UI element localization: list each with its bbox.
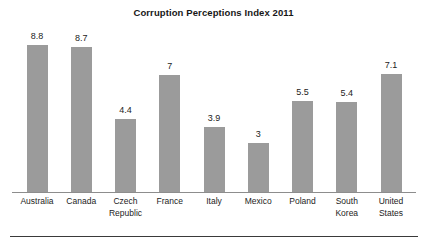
x-axis-tick-label-line: Australia <box>18 196 56 208</box>
bar <box>27 45 48 193</box>
x-axis-tick-label: Australia <box>18 196 56 219</box>
plot-area: 8.88.74.473.935.55.47.1 <box>12 30 416 193</box>
x-axis-category-labels: AustraliaCanadaCzechRepublicFranceItalyM… <box>12 196 416 219</box>
bar <box>336 102 357 193</box>
chart-page: Corruption Perceptions Index 2011 8.88.7… <box>0 0 427 245</box>
x-axis-line <box>12 192 416 193</box>
bar-value-label: 8.7 <box>75 33 88 44</box>
bar <box>248 143 269 193</box>
x-axis-tick-label: Canada <box>62 196 100 219</box>
bar-value-label: 4.4 <box>119 105 132 116</box>
x-axis-tick-label-line: Poland <box>284 196 322 208</box>
bar-column: 4.4 <box>107 30 145 193</box>
bar-column: 5.5 <box>284 30 322 193</box>
x-axis-tick-label-line: Italy <box>195 196 233 208</box>
footer-divider <box>10 236 418 237</box>
bar-column: 8.7 <box>62 30 100 193</box>
x-axis-tick-label: Poland <box>284 196 322 219</box>
x-axis-tick-label-line: Canada <box>62 196 100 208</box>
bar-column: 7 <box>151 30 189 193</box>
bar-value-label: 7.1 <box>385 60 398 71</box>
bar-value-label: 5.4 <box>340 88 353 99</box>
x-axis-tick-label-line: United <box>372 196 410 208</box>
bar <box>159 75 180 193</box>
bar-value-label: 8.8 <box>31 31 44 42</box>
bar-column: 5.4 <box>328 30 366 193</box>
bar-series: 8.88.74.473.935.55.47.1 <box>12 30 416 193</box>
x-axis-tick-label: Italy <box>195 196 233 219</box>
x-axis-tick-label-line: Korea <box>328 208 366 220</box>
x-axis-tick-label-line: Mexico <box>239 196 277 208</box>
x-axis-tick-label-line: Czech <box>107 196 145 208</box>
bar <box>292 101 313 193</box>
x-axis-tick-label: UnitedStates <box>372 196 410 219</box>
bar-value-label: 7 <box>167 61 172 72</box>
x-axis-tick-label: SouthKorea <box>328 196 366 219</box>
bar-column: 7.1 <box>372 30 410 193</box>
x-axis-tick-label-line: France <box>151 196 189 208</box>
bar-value-label: 5.5 <box>296 87 309 98</box>
bar-column: 3.9 <box>195 30 233 193</box>
x-axis-tick-label: Mexico <box>239 196 277 219</box>
chart-title: Corruption Perceptions Index 2011 <box>0 7 427 18</box>
bar-column: 8.8 <box>18 30 56 193</box>
bar <box>381 74 402 193</box>
bar-column: 3 <box>239 30 277 193</box>
x-axis-tick-label: CzechRepublic <box>107 196 145 219</box>
bar <box>204 127 225 193</box>
x-axis-tick-label: France <box>151 196 189 219</box>
x-axis-tick-label-line: South <box>328 196 366 208</box>
x-axis-tick-label-line: States <box>372 208 410 220</box>
bar-value-label: 3 <box>256 129 261 140</box>
bar <box>71 47 92 193</box>
x-axis-tick-label-line: Republic <box>107 208 145 220</box>
bar <box>115 119 136 193</box>
bar-value-label: 3.9 <box>208 113 221 124</box>
